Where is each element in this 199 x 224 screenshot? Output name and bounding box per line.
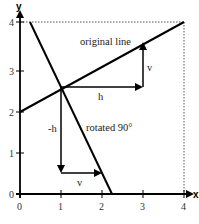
y-ticks: 0 1 2 3 4 (9, 17, 24, 200)
x-tick-4: 4 (181, 201, 186, 212)
y-tick-3: 3 (9, 66, 14, 77)
x-tick-1: 1 (58, 201, 63, 212)
x-tick-0: 0 (17, 201, 22, 212)
v-upper-label: v (147, 62, 153, 73)
y-tick-0: 0 (9, 189, 14, 200)
rotated-line (30, 22, 112, 194)
x-tick-2: 2 (99, 201, 104, 212)
x-axis-label: x (193, 189, 199, 200)
y-axis-label: y (16, 1, 22, 12)
h-upper-label: h (98, 91, 104, 102)
original-line-label: original line (80, 36, 131, 47)
y-tick-4: 4 (9, 17, 14, 28)
y-tick-1: 1 (9, 148, 14, 159)
x-tick-3: 3 (140, 201, 145, 212)
v-lower-label: v (77, 177, 83, 188)
rotation-diagram: y x 0 1 2 3 4 0 1 2 3 4 original line v (0, 0, 199, 224)
neg-h-label: -h (48, 123, 57, 134)
rotated-line-label: rotated 90° (86, 122, 132, 133)
y-tick-2: 2 (9, 107, 14, 118)
